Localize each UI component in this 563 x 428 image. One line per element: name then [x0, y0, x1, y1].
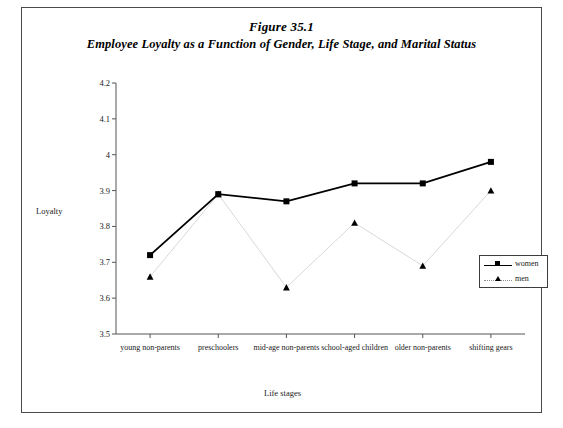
y-tick-label: 3.5 — [80, 329, 110, 339]
data-point-women — [352, 180, 358, 186]
data-point-men — [488, 187, 495, 193]
y-tick-label: 3.9 — [80, 186, 110, 196]
data-point-women — [147, 252, 153, 258]
y-tick-label: 4.1 — [80, 114, 110, 124]
data-point-men — [351, 219, 358, 225]
legend-item-men: men — [480, 272, 547, 288]
legend-label-men: men — [515, 274, 529, 283]
legend-marker-square-icon — [495, 261, 500, 266]
plot-area — [22, 8, 543, 414]
data-point-women — [488, 159, 494, 165]
series-line-men — [150, 191, 491, 288]
x-category-label: older non-parents — [389, 343, 457, 353]
y-tick-label: 4 — [80, 150, 110, 160]
data-point-women — [420, 180, 426, 186]
y-tick-label: 3.8 — [80, 221, 110, 231]
figure-frame: Figure 35.1 Employee Loyalty as a Functi… — [21, 7, 542, 413]
legend-label-women: women — [515, 259, 539, 268]
legend-item-women: women — [480, 257, 547, 273]
data-point-women — [283, 198, 289, 204]
x-category-label: preschoolers — [184, 343, 252, 353]
y-tick-label: 3.7 — [80, 257, 110, 267]
x-category-label: school-aged children — [321, 343, 389, 353]
line-chart-svg — [22, 8, 543, 414]
legend-marker-triangle-icon — [495, 276, 501, 281]
y-tick-label: 3.6 — [80, 293, 110, 303]
chart-legend: women men — [479, 255, 548, 288]
data-point-women — [215, 191, 221, 197]
x-category-label: mid-age non-parents — [252, 343, 320, 353]
series-line-women — [150, 162, 491, 255]
x-category-label: shifting gears — [457, 343, 525, 353]
x-category-label: young non-parents — [116, 343, 184, 353]
y-tick-label: 4.2 — [80, 78, 110, 88]
